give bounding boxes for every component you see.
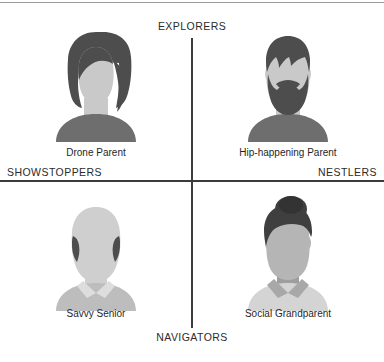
quadrant-top-left: Drone Parent: [0, 0, 192, 181]
persona-label-social-grandparent: Social Grandparent: [192, 308, 384, 319]
bearded-man-avatar-icon: [229, 24, 347, 142]
woman-bun-avatar-icon: [229, 195, 347, 313]
balding-man-avatar-icon: [37, 195, 155, 313]
quadrant-bottom-right: Social Grandparent: [192, 181, 384, 362]
persona-label-savvy-senior: Savvy Senior: [0, 308, 192, 319]
persona-label-hip-happening-parent: Hip-happening Parent: [192, 147, 384, 158]
woman-ponytail-avatar-icon: [37, 24, 155, 142]
quadrant-bottom-left: Savvy Senior: [0, 181, 192, 362]
persona-quadrant-matrix: EXPLORERS NAVIGATORS SHOWSTOPPERS NESTLE…: [0, 0, 384, 362]
quadrant-top-right: Hip-happening Parent: [192, 0, 384, 181]
persona-label-drone-parent: Drone Parent: [0, 147, 192, 158]
